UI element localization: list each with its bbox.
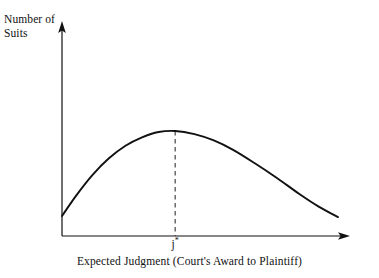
chart-figure: Number of Suits j* Expected Judgment (Co… bbox=[0, 0, 379, 278]
y-axis-label: Number of Suits bbox=[4, 12, 55, 40]
suits-curve bbox=[62, 131, 338, 217]
plot-canvas bbox=[0, 0, 379, 278]
x-axis-caption: Expected Judgment (Court's Award to Plai… bbox=[0, 255, 379, 267]
x-tick-label-j-star: j* bbox=[162, 238, 188, 250]
x-tick-label-superscript: * bbox=[175, 236, 179, 245]
